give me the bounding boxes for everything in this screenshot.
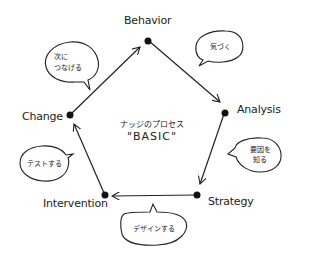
bubble-know-cause-line2: 知る (242, 155, 278, 165)
edge-strategy-to-intervention (112, 195, 196, 196)
edge-intervention-to-change (74, 124, 104, 193)
bubble-notice-text: 気づく (200, 42, 240, 52)
node-label-analysis: Analysis (237, 103, 281, 116)
node-dot-strategy (194, 192, 201, 199)
node-dot-behavior (145, 38, 152, 45)
edge-analysis-to-strategy (200, 114, 224, 184)
node-label-behavior: Behavior (124, 14, 171, 27)
bubble-test-text: テストする (22, 159, 66, 169)
node-label-strategy: Strategy (208, 195, 254, 208)
bubble-next-line1: 次に (50, 52, 98, 62)
node-dot-change (67, 112, 74, 119)
bubble-know-cause-line1: 要因を (242, 145, 278, 155)
node-label-intervention: Intervention (43, 197, 108, 210)
node-dot-analysis (222, 110, 229, 117)
center-title: ナッジのプロセス (117, 118, 187, 129)
center-subtitle: "BASIC" (117, 130, 187, 143)
bubble-next-line2: つなげる (50, 63, 98, 73)
node-label-change: Change (22, 110, 63, 123)
bubble-design-text: デザインする (126, 224, 182, 234)
